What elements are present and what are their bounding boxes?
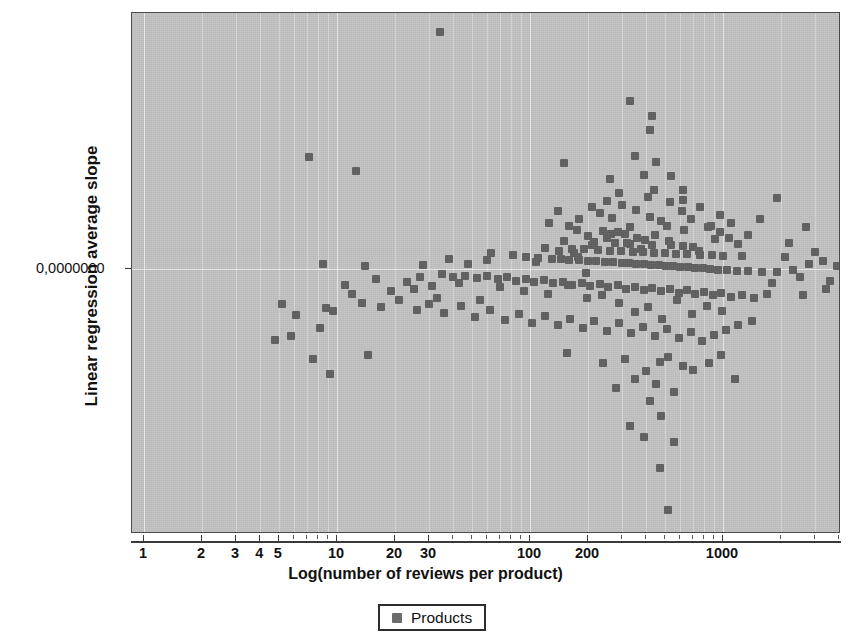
data-point	[679, 186, 687, 194]
data-point	[476, 296, 484, 304]
legend-label: Products	[411, 609, 472, 627]
data-point	[614, 281, 622, 289]
data-point	[663, 325, 671, 333]
data-point	[722, 326, 730, 334]
data-point	[473, 274, 481, 282]
x-axis-tick-mark	[428, 535, 429, 541]
data-point	[646, 397, 654, 405]
data-point	[656, 464, 664, 472]
data-point	[658, 315, 666, 323]
data-point	[503, 273, 511, 281]
data-point	[650, 249, 658, 257]
data-point	[606, 175, 614, 183]
data-point	[626, 97, 634, 105]
data-point	[596, 280, 604, 288]
gridline-vertical	[202, 13, 203, 532]
data-point	[826, 277, 834, 285]
data-point	[785, 239, 793, 247]
x-axis-tick-mark	[201, 535, 202, 541]
data-point	[609, 258, 617, 266]
data-point	[727, 293, 735, 301]
data-point	[652, 158, 660, 166]
x-axis-tick-mark	[452, 535, 453, 539]
data-point	[598, 291, 606, 299]
data-point	[413, 306, 421, 314]
data-point	[709, 291, 717, 299]
x-axis-tick-mark	[814, 535, 815, 539]
x-axis-tick-mark	[278, 535, 279, 541]
data-point	[648, 241, 656, 249]
data-point	[698, 337, 706, 345]
data-point	[509, 251, 517, 259]
gridline-vertical	[395, 13, 396, 532]
data-point	[522, 275, 530, 283]
data-point	[520, 287, 528, 295]
data-point	[748, 317, 756, 325]
data-point	[416, 273, 424, 281]
data-point	[436, 28, 444, 36]
x-axis-tick-label: 4	[255, 545, 263, 561]
data-point	[696, 203, 704, 211]
gridline-vertical	[144, 13, 145, 532]
data-point	[627, 329, 635, 337]
data-point	[601, 258, 609, 266]
data-point	[688, 310, 696, 318]
data-point	[438, 270, 446, 278]
data-point	[574, 253, 582, 261]
y-axis-tick-label: 0,0000000	[36, 260, 105, 276]
data-point	[615, 319, 623, 327]
data-point	[586, 282, 594, 290]
data-point	[714, 266, 722, 274]
data-point	[773, 268, 781, 276]
x-axis-tick-mark	[486, 535, 487, 539]
gridline-vertical	[704, 13, 705, 532]
data-point	[622, 285, 630, 293]
data-point	[700, 288, 708, 296]
data-point	[549, 279, 557, 287]
data-point	[773, 194, 781, 202]
data-point	[560, 159, 568, 167]
data-point	[716, 211, 724, 219]
data-point	[708, 251, 716, 259]
x-axis-tick-label: 200	[575, 545, 599, 561]
data-point	[287, 332, 295, 340]
data-point	[326, 370, 334, 378]
data-point	[683, 250, 691, 258]
data-point	[657, 287, 665, 295]
data-point	[710, 331, 718, 339]
data-point	[445, 255, 453, 263]
gridline-vertical	[665, 13, 666, 532]
data-point	[560, 237, 568, 245]
data-point	[588, 203, 596, 211]
data-point	[676, 263, 684, 271]
data-point	[615, 299, 623, 307]
data-point	[631, 283, 639, 291]
data-point	[578, 279, 586, 287]
x-axis-tick-mark	[703, 535, 704, 539]
data-point	[319, 260, 327, 268]
data-point	[603, 327, 611, 335]
x-axis-tick-mark	[529, 535, 530, 541]
gridline-vertical	[500, 13, 501, 532]
data-point	[584, 257, 592, 265]
data-point	[548, 255, 556, 263]
data-point	[758, 268, 766, 276]
data-point	[680, 226, 688, 234]
gridline-vertical	[781, 13, 782, 532]
data-point	[651, 231, 659, 239]
data-point	[292, 311, 300, 319]
x-axis-tick-mark	[143, 535, 144, 541]
data-point	[632, 260, 640, 268]
data-point	[329, 307, 337, 315]
gridline-vertical	[307, 13, 308, 532]
data-point	[640, 171, 648, 179]
legend[interactable]: Products	[378, 604, 486, 631]
data-point	[316, 324, 324, 332]
x-axis-tick-label: 1000	[706, 545, 738, 561]
gridline-vertical	[328, 13, 329, 532]
data-point	[664, 506, 672, 514]
gridline-vertical	[622, 13, 623, 532]
x-axis-tick-label: 2	[197, 545, 205, 561]
data-point	[687, 328, 695, 336]
x-axis-tick-mark	[587, 535, 588, 541]
